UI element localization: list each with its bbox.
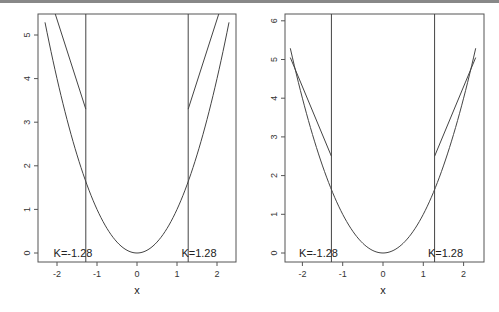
chart-panel-1: -2-1012012345xK=-1.28K=1.28: [22, 13, 236, 296]
y-tick-label: 3: [22, 120, 32, 125]
series-upper-left: [55, 13, 86, 109]
y-tick-label: 2: [22, 163, 32, 168]
x-tick-label: 2: [461, 269, 466, 279]
y-tick-label: 4: [22, 76, 32, 81]
plot-frame: [285, 14, 484, 262]
strike-annotation: K=1.28: [428, 247, 463, 259]
series-upper-right: [435, 58, 476, 157]
x-tick-label: 1: [421, 269, 426, 279]
y-tick-label: 1: [22, 207, 32, 212]
y-tick-label: 3: [269, 134, 279, 139]
y-tick-label: 4: [269, 96, 279, 101]
y-tick-label: 0: [269, 250, 279, 255]
y-tick-label: 0: [22, 250, 32, 255]
chart-canvas: -2-1012012345xK=-1.28K=1.28-2-1012012345…: [0, 0, 499, 312]
x-tick-label: 2: [214, 269, 219, 279]
chart-panel-2: -2-10120123456xK=-1.28K=1.28: [269, 14, 484, 296]
x-tick-label: 0: [380, 269, 385, 279]
series-parabola: [290, 48, 475, 253]
y-tick-label: 1: [269, 212, 279, 217]
x-tick-label: -1: [339, 269, 347, 279]
x-tick-label: -2: [53, 269, 61, 279]
strike-annotation: K=1.28: [181, 247, 216, 259]
series-parabola: [45, 22, 229, 253]
strike-annotation: K=-1.28: [54, 247, 93, 259]
series-upper-right: [188, 13, 219, 109]
x-axis-label: x: [134, 284, 140, 296]
x-tick-label: -2: [298, 269, 306, 279]
y-tick-label: 6: [269, 18, 279, 23]
strike-annotation: K=-1.28: [299, 247, 338, 259]
y-tick-label: 5: [22, 32, 32, 37]
series-upper-left: [290, 58, 331, 157]
x-tick-label: -1: [93, 269, 101, 279]
x-tick-label: 1: [174, 269, 179, 279]
x-tick-label: 0: [134, 269, 139, 279]
y-tick-label: 2: [269, 173, 279, 178]
y-tick-label: 5: [269, 57, 279, 62]
x-axis-label: x: [380, 284, 386, 296]
